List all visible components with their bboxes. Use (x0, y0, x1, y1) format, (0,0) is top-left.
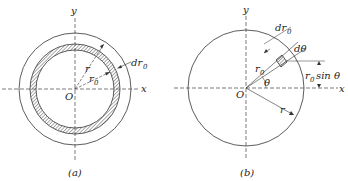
r-label: r (280, 104, 286, 115)
caption-a: (a) (68, 167, 82, 178)
radius-r-line (246, 88, 292, 114)
dr0-subscript: 0 (143, 63, 148, 71)
diagram-canvas: y x O r r 0 dr 0 (a) y (0, 0, 348, 181)
dr0-leader (120, 62, 131, 67)
axis-y-label: y (70, 5, 77, 16)
figure-a: y x O r r 0 dr 0 (a) (2, 5, 148, 178)
axis-x-label: x (141, 83, 147, 94)
r0-subscript: 0 (94, 79, 99, 87)
dr0-arrowhead (117, 65, 122, 69)
height-arrow-top (317, 61, 321, 65)
axis-x-label: x (339, 83, 345, 94)
radial-line-1 (246, 42, 298, 88)
height-arrow-bottom (317, 84, 321, 88)
dr0-label: dr (131, 57, 143, 68)
caption-b: (b) (240, 167, 254, 178)
area-element (276, 55, 287, 67)
r0sin-subscript: 0 (310, 76, 315, 84)
radius-r0-arrowhead (105, 72, 110, 76)
dtheta-label: dθ (294, 43, 306, 54)
figure-b: y x O dr 0 dθ r 0 θ r 0 sin θ r (b) (174, 4, 345, 178)
r0-subscript: 0 (260, 69, 265, 77)
theta-label: θ (264, 77, 270, 88)
axis-y-label: y (242, 4, 249, 15)
dr0-subscript: 0 (287, 28, 292, 36)
origin-label: O (236, 89, 244, 100)
r0sin-rest-label: sin θ (316, 70, 340, 81)
dr0-label: dr (275, 22, 287, 33)
origin-label: O (65, 91, 73, 102)
radius-r-arrowhead (100, 44, 104, 49)
